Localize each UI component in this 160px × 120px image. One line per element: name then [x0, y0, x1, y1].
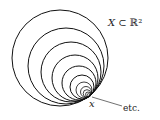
circles-group [12, 10, 108, 106]
etc-pointer-line [92, 97, 122, 106]
set-relation: ⊂ ℝ² [115, 17, 142, 28]
etc-label: etc. [123, 103, 140, 113]
point-label: x [89, 98, 95, 109]
set-label: X ⊂ ℝ² [108, 17, 142, 28]
